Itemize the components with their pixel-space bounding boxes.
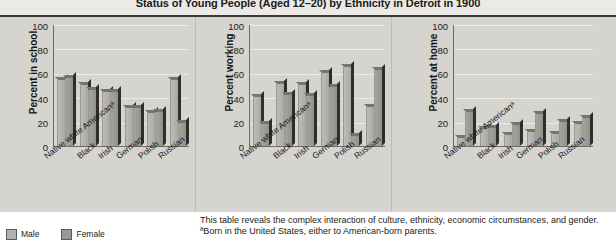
caption-line-2: ªBorn in the United States, either to Am… [200,226,614,237]
y-tick-40: 40 [422,94,448,105]
x-axis-labels: Native white Americanᵃ Black Irish Germa… [392,149,616,209]
legend-item-female: Female [61,229,104,240]
chart-panel-percent-at-home: Percent at home 100 80 60 40 20 0 [392,17,616,212]
chart-panel-percent-working: Percent working 100 80 60 40 20 0 [196,17,392,212]
bar-male [80,85,88,146]
y-tick-60: 60 [422,69,448,80]
bar-female [559,122,567,146]
y-tick-80: 80 [22,45,48,56]
chart-panels-container: Percent in school 100 80 60 40 20 0 [0,17,616,212]
legend: Male Female [6,229,196,249]
legend-item-male: Male [6,229,39,240]
y-tick-80: 80 [218,45,244,56]
caption-line-1: This table reveals the complex interacti… [200,215,599,225]
figure-title: Status of Young People (Aged 12–20) by E… [0,0,616,9]
x-axis-labels: Native white Americanᵃ Black Irish Germa… [0,149,196,209]
y-tick-60: 60 [218,69,244,80]
bar-group [343,67,359,146]
y-tick-100: 100 [22,21,48,32]
bar-female [512,125,520,146]
y-tick-20: 20 [22,118,48,129]
x-axis-labels: Native white Americanᵃ Black Irish Germa… [196,149,392,209]
chart-panel-percent-in-school: Percent in school 100 80 60 40 20 0 [0,17,196,212]
bar-group [504,125,520,146]
y-tick-40: 40 [218,94,244,105]
y-tick-40: 40 [22,94,48,105]
legend-swatch-icon [61,229,72,240]
figure-page: Status of Young People (Aged 12–20) by E… [0,0,616,250]
legend-swatch-icon [6,229,17,240]
legend-label: Female [76,229,104,239]
figure-footer: Male Female This table reveals the compl… [0,212,616,250]
y-tick-100: 100 [422,21,448,32]
y-tick-60: 60 [22,69,48,80]
y-tick-80: 80 [422,45,448,56]
legend-label: Male [21,229,39,239]
y-tick-100: 100 [218,21,244,32]
y-tick-20: 20 [218,118,244,129]
y-tick-20: 20 [422,118,448,129]
figure-caption: This table reveals the complex interacti… [200,215,614,237]
figure-title-bar: Status of Young People (Aged 12–20) by E… [0,0,616,15]
